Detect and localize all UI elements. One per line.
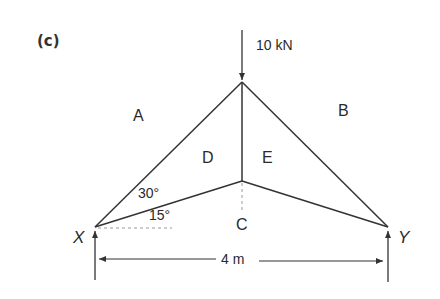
member-right-tie: [242, 181, 388, 227]
support-label-y: Y: [398, 228, 411, 247]
load-label: 10 kN: [256, 37, 293, 53]
space-label-d: D: [202, 149, 214, 166]
angle-label-30: 30°: [138, 185, 159, 201]
figure-label: (c): [37, 32, 60, 50]
support-label-x: X: [72, 228, 85, 247]
truss-diagram: (c) 10 kN A B D E C 30° 15° X Y: [0, 0, 440, 299]
space-label-b: B: [338, 102, 349, 119]
angle-label-15: 15°: [149, 207, 170, 223]
member-left-rafter: [95, 82, 242, 227]
span-dimension-label: 4 m: [221, 251, 244, 267]
space-label-c: C: [236, 216, 248, 233]
space-label-e: E: [262, 149, 273, 166]
space-label-a: A: [133, 107, 144, 124]
